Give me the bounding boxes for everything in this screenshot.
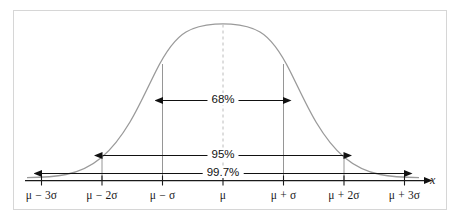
- label-68-percent: 68%: [207, 93, 238, 105]
- label-95-percent: 95%: [207, 148, 238, 160]
- tick-label-mu-minus-3-sigma: μ − 3σ: [26, 189, 58, 201]
- x-axis-label: x: [430, 173, 435, 188]
- tick-label-mu-plus-3-sigma: μ + 3σ: [389, 189, 421, 201]
- tick-label-mu-minus-1-sigma: μ − σ: [150, 189, 176, 201]
- tick-label-mu-plus-2-sigma: μ + 2σ: [328, 189, 360, 201]
- tick-label-mu: μ: [220, 189, 226, 201]
- empirical-rule-figure: 68% 95% 99.7% μ − 3σ μ − 2σ μ − σ μ μ + …: [0, 0, 460, 223]
- tick-label-mu-plus-1-sigma: μ + σ: [271, 189, 297, 201]
- label-997-percent: 99.7%: [203, 166, 244, 178]
- tick-label-mu-minus-2-sigma: μ − 2σ: [86, 189, 118, 201]
